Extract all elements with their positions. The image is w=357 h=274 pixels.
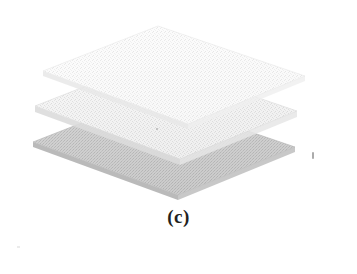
layer-stack-illustration <box>0 0 357 274</box>
figure-caption: (c) <box>0 206 357 228</box>
scan-artifact-speck-bottom-left <box>17 246 20 248</box>
figure-panel-c: (c) <box>0 0 357 274</box>
scan-artifact-speck-right <box>312 152 314 159</box>
scan-artifact-speck-center <box>156 128 158 130</box>
